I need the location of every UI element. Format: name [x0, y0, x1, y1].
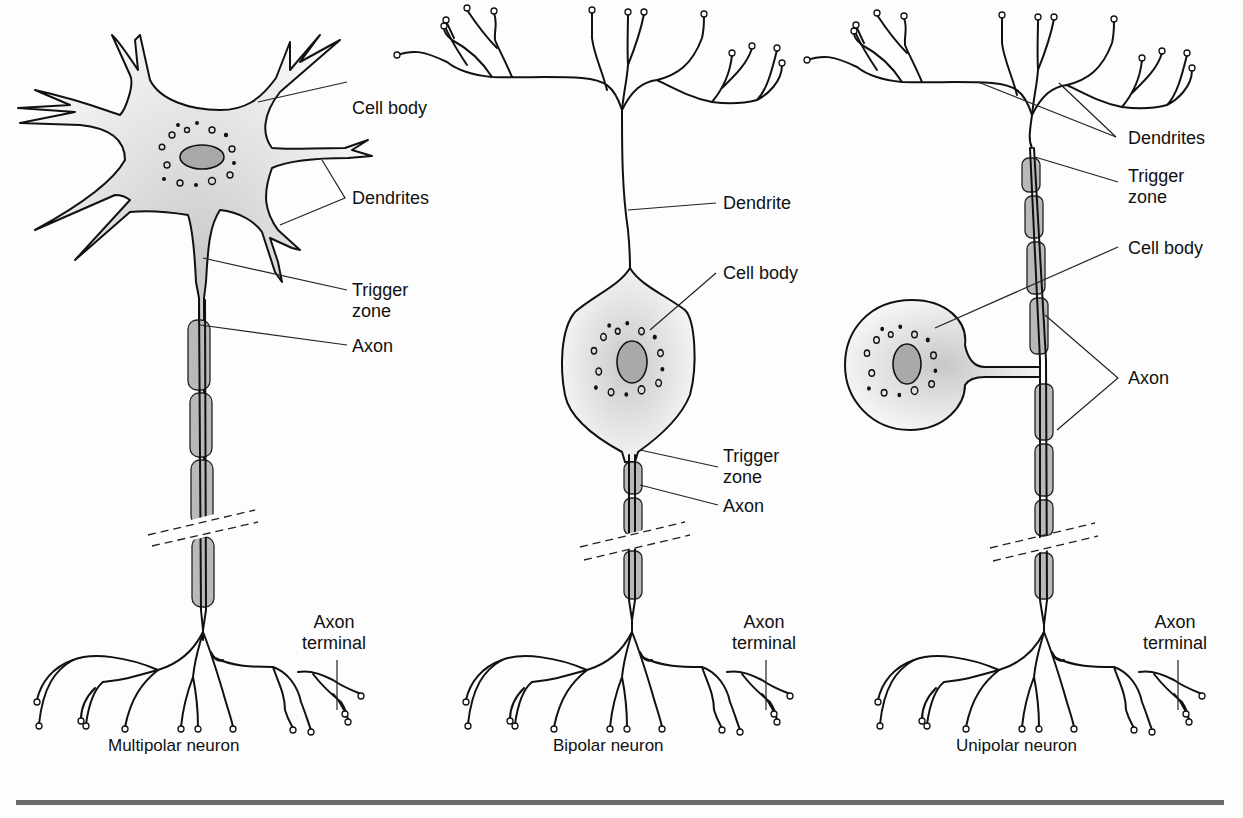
label-unipolar-axon: Axon — [1128, 368, 1169, 389]
label-bipolar-trigger-zone: Trigger zone — [723, 446, 779, 488]
label-unipolar-cell-body: Cell body — [1128, 238, 1203, 259]
label-multipolar-trigger-zone: Trigger zone — [352, 280, 408, 322]
caption-unipolar: Unipolar neuron — [956, 736, 1077, 756]
caption-bipolar: Bipolar neuron — [553, 736, 664, 756]
neuron-types-figure: Cell body Dendrites Trigger zone Axon Ax… — [0, 0, 1243, 818]
label-multipolar-cell-body: Cell body — [352, 98, 427, 119]
figure-divider-rule — [16, 800, 1224, 805]
label-bipolar-axon-terminal: Axon terminal — [732, 612, 796, 654]
label-unipolar-dendrites: Dendrites — [1128, 128, 1205, 149]
label-multipolar-axon: Axon — [352, 336, 393, 357]
label-unipolar-trigger-zone: Trigger zone — [1128, 166, 1184, 208]
label-bipolar-cell-body: Cell body — [723, 263, 798, 284]
label-multipolar-dendrites: Dendrites — [352, 188, 429, 209]
label-bipolar-dendrite: Dendrite — [723, 193, 791, 214]
label-bipolar-axon: Axon — [723, 496, 764, 517]
neuron-diagram-art — [0, 0, 1243, 818]
label-multipolar-axon-terminal: Axon terminal — [302, 612, 366, 654]
caption-multipolar: Multipolar neuron — [108, 736, 239, 756]
label-unipolar-axon-terminal: Axon terminal — [1143, 612, 1207, 654]
